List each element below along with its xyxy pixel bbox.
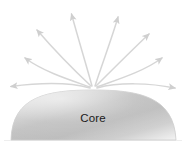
arrow-vertical-left bbox=[72, 14, 93, 86]
arrow-far-left bbox=[11, 84, 90, 88]
arrow-group bbox=[11, 14, 175, 88]
core-label: Core bbox=[80, 112, 106, 124]
arrow-upper-left bbox=[25, 58, 90, 87]
arrow-far-right bbox=[97, 84, 175, 88]
arrow-upper-right bbox=[97, 58, 162, 87]
core-diagram-canvas: Core bbox=[0, 0, 186, 149]
core-diagram: Core bbox=[0, 0, 186, 149]
